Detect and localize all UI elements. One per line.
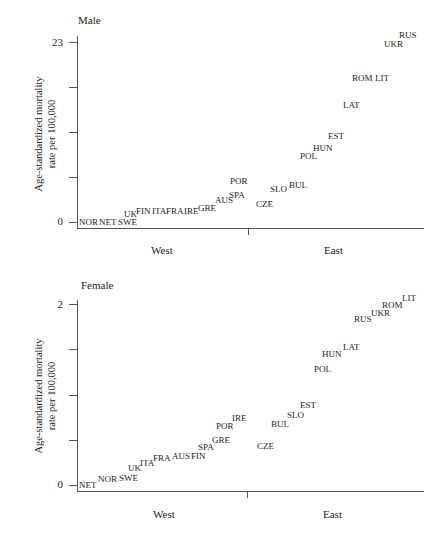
- male-y-tick-label-bottom: 0: [33, 215, 63, 227]
- data-label-AUS: AUS: [172, 452, 190, 461]
- data-label-POR: POR: [230, 177, 248, 186]
- data-label-CZE: CZE: [257, 442, 274, 451]
- female-panel-title: Female: [81, 279, 113, 291]
- male-y-tick: [69, 42, 77, 43]
- female-x-group-east: East: [323, 508, 342, 520]
- data-label-HUN: HUN: [313, 144, 333, 153]
- data-label-ROM: ROM: [352, 74, 373, 83]
- data-label-NET: NET: [99, 218, 117, 227]
- data-label-LIT: LIT: [375, 74, 389, 83]
- male-y-axis-label-line1: Age-standardized mortality: [32, 54, 45, 214]
- female-y-tick: [69, 395, 77, 396]
- data-label-FIN: FIN: [191, 452, 206, 461]
- male-x-axis: [77, 228, 424, 229]
- data-label-SLO: SLO: [287, 411, 304, 420]
- male-y-axis: [77, 36, 78, 229]
- data-label-HUN: HUN: [322, 350, 342, 359]
- data-label-GRE: GRE: [212, 436, 230, 445]
- data-label-POL: POL: [314, 365, 331, 374]
- data-label-NOR: NOR: [98, 475, 117, 484]
- data-label-EST: EST: [328, 132, 344, 141]
- female-y-tick-label-top: 2: [33, 298, 63, 310]
- female-y-tick: [69, 304, 77, 305]
- male-y-tick-label-top: 23: [33, 36, 63, 48]
- female-x-axis: [77, 491, 424, 492]
- data-label-RUS: RUS: [399, 31, 417, 40]
- data-label-ITA: ITA: [152, 207, 166, 216]
- data-label-IRE: IRE: [184, 207, 199, 216]
- male-panel-title: Male: [78, 14, 101, 26]
- female-y-tick-label-bottom: 0: [33, 478, 63, 490]
- male-chart-panel: Male Age-standardized mortality rate per…: [0, 0, 445, 265]
- data-label-BUL: BUL: [289, 181, 307, 190]
- male-x-divider-tick: [248, 228, 249, 235]
- data-label-NET: NET: [79, 481, 97, 490]
- data-label-NOR: NOR: [79, 218, 98, 227]
- male-y-axis-label-line2: rate per 100,000: [45, 54, 58, 214]
- data-label-POL: POL: [300, 152, 317, 161]
- data-label-POR: POR: [216, 422, 234, 431]
- female-y-tick: [69, 349, 77, 350]
- data-label-SPA: SPA: [229, 191, 245, 200]
- data-label-ROM: ROM: [382, 301, 403, 310]
- data-label-UKR: UKR: [371, 309, 390, 318]
- data-label-LAT: LAT: [343, 343, 360, 352]
- data-label-IRE: IRE: [232, 414, 247, 423]
- female-y-tick: [69, 440, 77, 441]
- male-y-tick: [69, 177, 77, 178]
- male-x-group-west: West: [151, 244, 173, 256]
- data-label-CZE: CZE: [256, 200, 273, 209]
- data-label-EST: EST: [300, 401, 316, 410]
- female-y-axis-label-line1: Age-standardized mortality: [32, 316, 45, 476]
- male-y-axis-label: Age-standardized mortality rate per 100,…: [32, 54, 60, 214]
- data-label-RUS: RUS: [354, 315, 372, 324]
- data-label-SLO: SLO: [270, 185, 287, 194]
- data-label-BUL: BUL: [271, 420, 289, 429]
- female-chart-panel: Female Age-standardized mortality rate p…: [0, 265, 445, 533]
- data-label-GRE: GRE: [198, 204, 216, 213]
- data-label-SWE: SWE: [118, 218, 137, 227]
- female-x-group-west: West: [153, 508, 175, 520]
- female-y-axis-label-line2: rate per 100,000: [45, 316, 58, 476]
- data-label-LAT: LAT: [343, 101, 360, 110]
- data-label-LIT: LIT: [402, 294, 416, 303]
- male-y-tick: [69, 222, 77, 223]
- female-y-tick: [69, 485, 77, 486]
- male-y-tick: [69, 87, 77, 88]
- data-label-UKR: UKR: [384, 40, 403, 49]
- male-x-group-east: East: [324, 244, 343, 256]
- data-label-FRA: FRA: [153, 454, 171, 463]
- female-y-axis: [77, 300, 78, 492]
- data-label-FIN: FIN: [136, 207, 151, 216]
- female-x-divider-tick: [247, 491, 248, 498]
- data-label-FRA: FRA: [166, 207, 184, 216]
- male-y-tick: [69, 132, 77, 133]
- data-label-SWE: SWE: [119, 474, 138, 483]
- female-y-axis-label: Age-standardized mortality rate per 100,…: [32, 316, 60, 476]
